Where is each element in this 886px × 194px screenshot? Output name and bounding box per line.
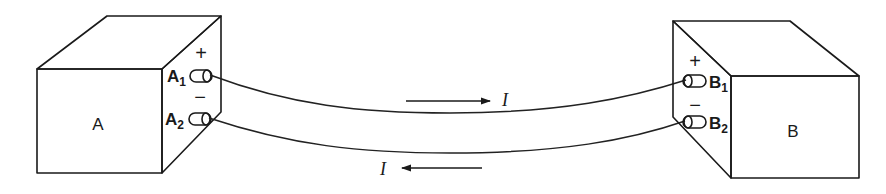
upper-wire <box>210 75 686 113</box>
box-a-side-face <box>162 16 221 173</box>
lower-wire <box>209 118 685 153</box>
terminal-a1-polarity: + <box>195 42 207 64</box>
terminal-b2: − B2 <box>683 94 728 136</box>
current-return-label: I <box>379 159 387 179</box>
current-forward: I <box>406 90 509 110</box>
terminal-b2-connector-icon <box>683 116 706 128</box>
box-b-side-face <box>673 21 731 178</box>
terminal-b1-label: B1 <box>709 73 728 95</box>
terminal-b1-polarity: + <box>689 50 701 72</box>
terminal-b2-polarity: − <box>689 94 701 116</box>
terminal-a1-label: A1 <box>167 67 186 89</box>
box-b-label: B <box>787 122 798 141</box>
circuit-diagram: A + A1 − A2 I I <box>0 0 886 194</box>
terminal-a1-connector-icon <box>190 70 212 82</box>
box-a: A + A1 − A2 <box>37 16 221 173</box>
terminal-b1-connector-icon <box>683 75 706 87</box>
terminal-a2: − A2 <box>165 86 211 132</box>
terminal-a2-polarity: − <box>194 86 206 108</box>
terminal-b1: + B1 <box>683 50 728 95</box>
terminal-b2-label: B2 <box>709 114 728 136</box>
box-a-top-face <box>37 16 221 69</box>
current-return: I <box>379 159 482 179</box>
terminal-a2-connector-icon <box>189 113 211 125</box>
box-b: B + B1 − B2 <box>673 21 859 178</box>
box-a-label: A <box>92 115 104 134</box>
terminal-a2-label: A2 <box>165 110 184 132</box>
current-forward-label: I <box>501 90 509 110</box>
terminal-a1: + A1 <box>167 42 212 89</box>
